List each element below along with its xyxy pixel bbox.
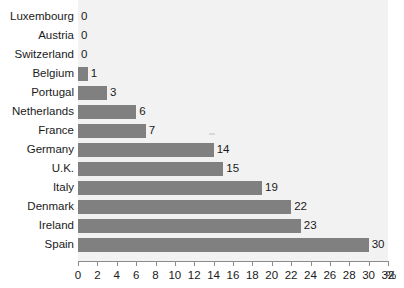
bar (78, 124, 146, 138)
category-label: Belgium (0, 64, 74, 83)
x-axis-tick-label: 16 (227, 266, 240, 284)
chart-row: Italy19 (0, 178, 404, 197)
bar-value-label: 0 (78, 45, 87, 64)
chart-row: Germany14 (0, 140, 404, 159)
x-axis-tick-label: 24 (304, 266, 317, 284)
x-axis-tick-label: 0 (75, 266, 81, 284)
bar-value-label: 23 (301, 216, 317, 235)
bar-value-label: 3 (107, 83, 116, 102)
x-axis-tick-label: 6 (133, 266, 139, 284)
x-axis-tick-label: 10 (168, 266, 181, 284)
bar-value-label: 15 (223, 159, 239, 178)
bar (78, 105, 136, 119)
x-axis-tick-label: 28 (343, 266, 356, 284)
category-label: U.K. (0, 159, 74, 178)
chart-row: Spain30 (0, 235, 404, 254)
x-axis-tick-label: 8 (152, 266, 158, 284)
chart-row: Ireland23 (0, 216, 404, 235)
category-label: Denmark (0, 197, 74, 216)
x-axis-tick-label: 30 (362, 266, 375, 284)
bar (78, 67, 88, 81)
x-axis-tick-label: 2 (94, 266, 100, 284)
chart-row: France7 (0, 121, 404, 140)
chart-row: Netherlands6 (0, 102, 404, 121)
category-label: Ireland (0, 216, 74, 235)
bar (78, 238, 369, 252)
category-label: Switzerland (0, 45, 74, 64)
plot-artifact-speck (209, 133, 215, 135)
category-label: Netherlands (0, 102, 74, 121)
bar-value-label: 19 (262, 178, 278, 197)
bar (78, 162, 223, 176)
bar-chart: Luxembourg0Austria0Switzerland0Belgium1P… (0, 0, 404, 288)
x-axis-tick-label: 20 (265, 266, 278, 284)
category-label: France (0, 121, 74, 140)
chart-row: Belgium1 (0, 64, 404, 83)
bar-value-label: 6 (136, 102, 145, 121)
bar-value-label: 0 (78, 7, 87, 26)
x-axis-tick-label: 22 (285, 266, 298, 284)
bar-value-label: 1 (88, 64, 97, 83)
x-axis-tick-label: 26 (323, 266, 336, 284)
chart-row: Denmark22 (0, 197, 404, 216)
bar-value-label: 7 (146, 121, 155, 140)
bar (78, 219, 301, 233)
chart-row: Portugal3 (0, 83, 404, 102)
category-label: Italy (0, 178, 74, 197)
bar (78, 86, 107, 100)
bar-value-label: 30 (369, 235, 385, 254)
category-label: Austria (0, 26, 74, 45)
x-axis-unit-label: % (386, 266, 396, 284)
category-label: Spain (0, 235, 74, 254)
bar (78, 200, 291, 214)
bar-value-label: 0 (78, 26, 87, 45)
x-axis-tick-label: 12 (188, 266, 201, 284)
chart-row: Switzerland0 (0, 45, 404, 64)
chart-row: Luxembourg0 (0, 7, 404, 26)
category-label: Luxembourg (0, 7, 74, 26)
x-axis-tick-label: 14 (207, 266, 220, 284)
bar-value-label: 14 (214, 140, 230, 159)
bar-value-label: 22 (291, 197, 307, 216)
chart-row: U.K.15 (0, 159, 404, 178)
x-axis-tick-label: 4 (114, 266, 120, 284)
category-label: Portugal (0, 83, 74, 102)
chart-row: Austria0 (0, 26, 404, 45)
x-axis-tick-label: 18 (246, 266, 259, 284)
bar (78, 181, 262, 195)
bar (78, 143, 214, 157)
category-label: Germany (0, 140, 74, 159)
chart-rows: Luxembourg0Austria0Switzerland0Belgium1P… (0, 0, 404, 261)
